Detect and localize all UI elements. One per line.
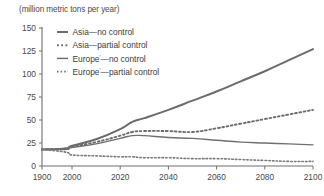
series-line-0	[42, 49, 313, 149]
x-tick-label: 2100	[304, 172, 323, 182]
x-tick-label: 2040	[159, 172, 178, 182]
x-tick-label: 2000	[63, 172, 82, 182]
line-chart-svg: 0255075100125150 19002000202020402060208…	[0, 0, 324, 196]
y-tick-label: 125	[22, 46, 36, 56]
x-axis-ticks: 1900200020202040206020802100	[33, 166, 323, 182]
legend-label-3: Europe′—partial control	[73, 67, 160, 77]
y-axis-unit-label: (million metric tons per year)	[19, 5, 119, 14]
chart-legend: Asia—no controlAsia—partial controlEurop…	[57, 27, 159, 77]
y-tick-label: 75	[27, 92, 37, 102]
legend-label-1: Asia—partial control	[73, 40, 148, 50]
legend-label-0: Asia—no control	[73, 27, 135, 37]
x-tick-label: 2080	[255, 172, 274, 182]
y-tick-label: 25	[27, 138, 37, 148]
chart-container: (million metric tons per year) 025507510…	[0, 0, 324, 196]
x-tick-label: 2060	[207, 172, 226, 182]
y-axis-ticks: 0255075100125150	[22, 23, 42, 171]
x-tick-label: 2020	[111, 172, 130, 182]
x-tick-label: 1900	[33, 172, 52, 182]
legend-label-2: Europe′—no control	[73, 54, 146, 64]
y-tick-label: 0	[31, 161, 36, 171]
series-line-3	[42, 149, 313, 161]
y-tick-label: 150	[22, 23, 36, 33]
y-tick-label: 50	[27, 115, 37, 125]
y-tick-label: 100	[22, 69, 36, 79]
